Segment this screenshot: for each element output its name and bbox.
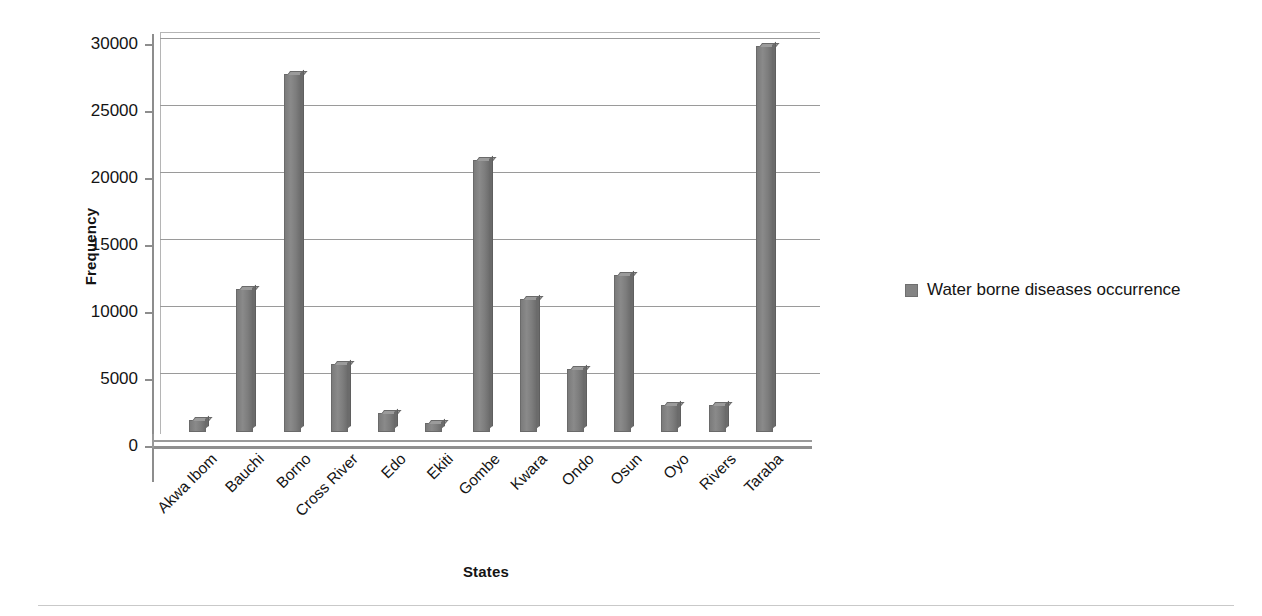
y-axis-tick (145, 312, 152, 314)
x-axis-tick-label: Kwara (507, 450, 551, 494)
x-axis-tick-label: Ondo (559, 450, 599, 490)
plot-floor-top (152, 440, 812, 442)
bar (189, 420, 206, 432)
x-axis-title: States (152, 563, 820, 580)
bar-chart-figure: Frequency 050001000015000200002500030000… (0, 0, 1262, 616)
y-axis-line (152, 34, 154, 482)
x-axis-tick-label: Bauchi (221, 450, 267, 496)
bar (520, 299, 537, 432)
bar (284, 74, 301, 432)
bar-top-face (239, 286, 259, 290)
bar-top-face (334, 361, 354, 365)
plot-area (152, 38, 820, 440)
chart-legend: Water borne diseases occurrence (905, 280, 1181, 300)
y-axis-tick (145, 44, 152, 46)
bar (425, 423, 442, 432)
y-axis-tick-label: 5000 (100, 369, 138, 389)
x-axis-tick-label: Taraba (741, 450, 787, 496)
bar-side-face (725, 400, 729, 429)
bar-side-face (772, 42, 776, 429)
gridline (160, 38, 820, 39)
gridline (160, 105, 820, 106)
x-axis-tick-label: Oyo (660, 450, 693, 483)
bar-side-face (677, 400, 681, 429)
bar (709, 405, 726, 432)
bar-top-face (664, 402, 684, 406)
bar-side-face (300, 70, 304, 429)
bar-top-face (428, 420, 448, 424)
page-divider (38, 605, 1234, 606)
y-axis-tick-label: 20000 (91, 168, 138, 188)
y-axis-tick-label: 30000 (91, 34, 138, 54)
bar-side-face (252, 284, 256, 429)
legend-swatch-icon (905, 284, 918, 297)
bar (378, 413, 395, 432)
bar (614, 275, 631, 432)
bar (567, 369, 584, 432)
bar-side-face (536, 295, 540, 429)
y-axis-tick-label: 15000 (91, 235, 138, 255)
y-axis-tick (145, 245, 152, 247)
legend-label: Water borne diseases occurrence (927, 280, 1181, 300)
x-axis-tick-label: Akwa Ibom (153, 450, 220, 517)
bar-side-face (630, 271, 634, 429)
x-axis-tick-label: Edo (377, 450, 409, 482)
bar-top-face (570, 366, 590, 370)
y-axis-tick (145, 111, 152, 113)
bar (756, 46, 773, 432)
bar-top-face (523, 296, 543, 300)
x-axis-tick-label: Osun (606, 450, 645, 489)
bar (236, 289, 253, 432)
x-axis-tick-label: Borno (273, 450, 315, 492)
y-axis-tick-label: 10000 (91, 302, 138, 322)
x-axis-tick-label: Rivers (696, 450, 740, 494)
bar-top-face (759, 43, 779, 47)
y-axis-tick-label: 25000 (91, 101, 138, 121)
y-axis-tick-label: 0 (129, 436, 138, 456)
x-axis-tick-label: Ekiti (423, 450, 456, 483)
bar (661, 405, 678, 432)
x-axis-tick-labels: Akwa IbomBauchiBornoCross RiverEdoEkitiG… (152, 444, 852, 554)
bar-top-face (192, 417, 212, 421)
y-axis-tick (145, 178, 152, 180)
x-axis-tick-label: Gombe (455, 450, 504, 499)
bar (331, 364, 348, 432)
y-axis-tick (145, 446, 152, 448)
bar (473, 160, 490, 432)
y-axis-tick (145, 379, 152, 381)
bar-side-face (583, 365, 587, 429)
bar-side-face (489, 156, 493, 429)
bar-side-face (347, 359, 351, 429)
